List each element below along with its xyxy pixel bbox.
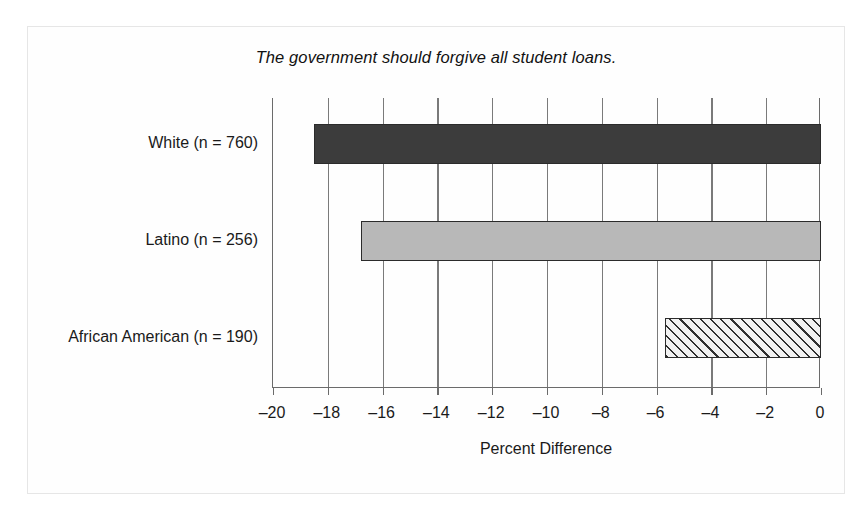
category-label: Latino (n = 256)	[145, 231, 258, 249]
x-tick-label: –12	[478, 404, 505, 422]
x-tick	[328, 388, 329, 395]
x-tick-label: –8	[592, 404, 610, 422]
x-tick-label: –16	[368, 404, 395, 422]
x-tick	[437, 388, 438, 395]
x-tick-label: –2	[756, 404, 774, 422]
x-tick	[602, 388, 603, 395]
x-tick	[547, 388, 548, 395]
x-tick-label: –10	[533, 404, 560, 422]
figure-container: The government should forgive all studen…	[0, 0, 866, 519]
x-tick	[766, 388, 767, 395]
x-tick-label: –4	[701, 404, 719, 422]
x-tick-label: –18	[313, 404, 340, 422]
x-tick	[492, 388, 493, 395]
x-tick	[821, 388, 822, 395]
x-tick-label: –20	[259, 404, 286, 422]
x-tick-label: –14	[423, 404, 450, 422]
x-tick	[711, 388, 712, 395]
category-label: White (n = 760)	[148, 134, 258, 152]
x-tick	[657, 388, 658, 395]
x-tick-label: –6	[647, 404, 665, 422]
x-tick-label: 0	[816, 404, 825, 422]
x-tick	[273, 388, 274, 395]
bar	[314, 124, 821, 164]
category-label: African American (n = 190)	[68, 328, 258, 346]
category-axis-labels: White (n = 760)Latino (n = 256)African A…	[0, 0, 258, 519]
plot-area	[272, 98, 820, 388]
x-tick	[383, 388, 384, 395]
x-axis-title: Percent Difference	[272, 440, 820, 458]
bar	[361, 221, 821, 261]
bar	[665, 318, 821, 358]
